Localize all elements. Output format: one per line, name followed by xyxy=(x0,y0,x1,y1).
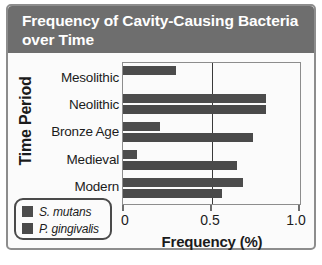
x-tick-label-0.5: 0.5 xyxy=(200,212,219,228)
y-axis-tick-labels: Mesolithic Neolithic Bronze Age Medieval… xyxy=(6,62,119,205)
y-tick-bronze-age: Bronze Age xyxy=(9,124,119,139)
chart-figure: Frequency of Cavity-Causing Bacteria ove… xyxy=(0,0,322,265)
bar-mesolithic-s-mutans xyxy=(123,66,176,75)
legend-label-p-gingivalis: P. gingivalis xyxy=(39,222,99,236)
chart-title: Frequency of Cavity-Causing Bacteria ove… xyxy=(22,11,304,49)
title-banner: Frequency of Cavity-Causing Bacteria ove… xyxy=(8,6,314,53)
y-tick-modern: Modern xyxy=(9,179,119,194)
x-axis-title: Frequency (%) xyxy=(122,233,302,250)
x-tick-mark-0.5 xyxy=(210,205,212,211)
chart-legend: S. mutans P. gingivalis xyxy=(14,198,112,240)
bar-medieval-s-mutans xyxy=(123,150,137,159)
plot-area xyxy=(122,62,301,205)
legend-label-s-mutans: S. mutans xyxy=(39,205,91,219)
legend-item-p-gingivalis: P. gingivalis xyxy=(22,220,110,237)
legend-item-s-mutans: S. mutans xyxy=(22,203,110,220)
x-tick-mark-0 xyxy=(122,205,124,211)
y-tick-mesolithic: Mesolithic xyxy=(9,70,119,85)
bar-modern-p-gingivalis xyxy=(123,189,222,198)
x-tick-label-0: 0 xyxy=(121,212,129,228)
bar-medieval-p-gingivalis xyxy=(123,161,237,170)
bar-neolithic-s-mutans xyxy=(123,94,266,103)
x-tick-mark-1.0 xyxy=(298,205,300,211)
bar-modern-s-mutans xyxy=(123,178,243,187)
y-tick-medieval: Medieval xyxy=(9,152,119,167)
x-tick-label-1.0: 1.0 xyxy=(286,212,305,228)
legend-swatch-p-gingivalis-icon xyxy=(22,223,33,234)
x-axis: 0 0.5 1.0 xyxy=(122,205,301,233)
bar-bronze-age-s-mutans xyxy=(123,122,160,131)
bar-bronze-age-p-gingivalis xyxy=(123,133,253,142)
bar-neolithic-p-gingivalis xyxy=(123,105,266,114)
legend-swatch-s-mutans-icon xyxy=(22,206,33,217)
y-tick-neolithic: Neolithic xyxy=(9,97,119,112)
